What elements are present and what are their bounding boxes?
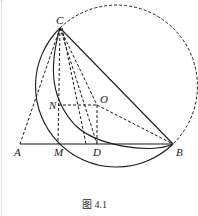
geometry-figure: C N O A M D B 图 4.1	[0, 0, 198, 216]
segment-co	[60, 28, 97, 105]
segment-cd2	[62, 28, 86, 144]
label-b: B	[176, 146, 183, 158]
segment-cm	[58, 28, 60, 144]
label-a: A	[13, 146, 21, 158]
label-n: N	[48, 99, 57, 111]
label-c: C	[56, 14, 64, 26]
segment-ob	[97, 105, 173, 144]
figure-caption: 图 4.1	[82, 199, 107, 210]
segment-ca	[20, 28, 60, 144]
label-o: O	[100, 93, 108, 105]
label-m: M	[53, 146, 64, 158]
inner-arc-cndb	[53, 28, 173, 149]
label-d: D	[92, 146, 101, 158]
dashed-circle-arc	[60, 5, 197, 144]
